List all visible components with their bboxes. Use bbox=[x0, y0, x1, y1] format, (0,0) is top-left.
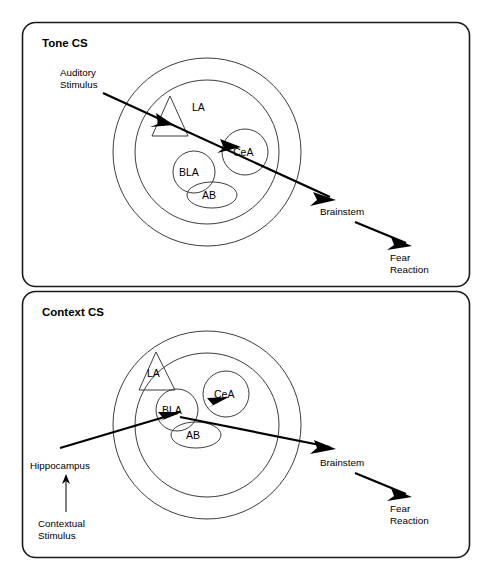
panel-tone-title: Tone CS bbox=[42, 37, 88, 49]
context-arrowhead-cea bbox=[206, 397, 229, 409]
context-arrowhead-fear bbox=[387, 488, 412, 501]
amygdala-inner-outline-tone bbox=[135, 80, 279, 224]
tone-fear-pathway-line bbox=[355, 222, 406, 243]
auditory-stimulus-label-line2: Stimulus bbox=[60, 79, 98, 90]
panel-context-title: Context CS bbox=[42, 306, 104, 318]
contextual-stimulus-label-line2: Stimulus bbox=[38, 530, 76, 541]
context-arrowhead-brainstem bbox=[310, 440, 336, 454]
fear-reaction-label-tone-line1: Fear bbox=[390, 252, 411, 263]
tone-arrowhead-fear bbox=[387, 237, 412, 250]
context-bla-cea-brainstem-line bbox=[180, 417, 330, 447]
panel-context-cs: Context CS LA CeA BLA AB Hippocampus bbox=[23, 292, 470, 558]
fear-reaction-label-context-line2: Reaction bbox=[390, 515, 429, 526]
context-hippocampus-bla-line bbox=[60, 413, 178, 448]
la-label-tone: LA bbox=[192, 101, 205, 113]
amygdala-outline-tone bbox=[113, 58, 301, 246]
panel-tone-cs: Tone CS Auditory Stimulus LA CeA BLA AB bbox=[23, 23, 470, 287]
fear-reaction-label-context-line1: Fear bbox=[390, 503, 411, 514]
diagram-canvas: Tone CS Auditory Stimulus LA CeA BLA AB bbox=[0, 0, 489, 577]
ab-label-context: AB bbox=[186, 429, 200, 441]
hippocampus-label: Hippocampus bbox=[30, 460, 90, 471]
la-label-context: LA bbox=[147, 367, 160, 379]
auditory-stimulus-label-line1: Auditory bbox=[60, 67, 96, 78]
brainstem-label-context: Brainstem bbox=[320, 457, 364, 468]
fear-reaction-label-tone-line2: Reaction bbox=[390, 264, 429, 275]
context-fear-pathway-line bbox=[355, 473, 406, 494]
bla-label-tone: BLA bbox=[179, 166, 199, 178]
ab-label-tone: AB bbox=[202, 189, 216, 201]
brainstem-label-tone: Brainstem bbox=[320, 206, 364, 217]
tone-main-pathway-line bbox=[103, 93, 330, 197]
figure-container: Tone CS Auditory Stimulus LA CeA BLA AB bbox=[0, 0, 489, 577]
contextual-stimulus-label-line1: Contextual bbox=[38, 518, 85, 529]
